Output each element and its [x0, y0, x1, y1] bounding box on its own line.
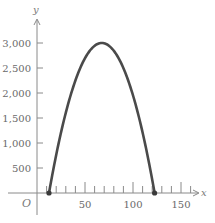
- y-tick-label: 1,500: [2, 113, 31, 124]
- parabola-curve: [49, 43, 155, 193]
- y-tick-label: 2,000: [2, 88, 31, 99]
- x-tick-label: 100: [123, 199, 142, 210]
- y-axis-label: y: [32, 4, 39, 15]
- y-tick-label: 1,000: [2, 138, 31, 149]
- root-point: [152, 190, 157, 195]
- x-tick-label: 50: [79, 199, 92, 210]
- x-ticks: [47, 182, 191, 193]
- y-tick-label: 2,500: [2, 63, 31, 74]
- y-ticks: [37, 43, 43, 168]
- y-tick-label: 500: [12, 163, 31, 174]
- axes: [8, 19, 199, 215]
- tick-labels: 501001505001,0001,5002,0002,5003,000: [2, 38, 190, 211]
- chart: 501001505001,0001,5002,0002,5003,000 y x…: [0, 0, 215, 223]
- y-tick-label: 3,000: [2, 38, 31, 49]
- origin-label: O: [22, 197, 31, 210]
- root-point: [46, 190, 51, 195]
- x-axis-label: x: [201, 187, 207, 198]
- x-tick-label: 150: [171, 199, 190, 210]
